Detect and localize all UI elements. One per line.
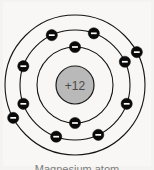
electron-L-2 [18,98,29,109]
electron-K-2 [69,41,80,52]
electron-L-6 [119,56,130,67]
electron-L-3 [18,61,29,72]
atom-model-svg: +12 [0,0,154,170]
electron-L-7 [121,98,132,109]
nucleus: +12 [56,66,94,104]
atom-diagram-figure: +12 Magnesium atom [0,0,154,170]
electron-L-5 [88,28,99,39]
electron-M-2 [131,47,142,58]
electron-K-1 [69,117,80,128]
figure-caption: Magnesium atom [0,163,154,170]
electron-L-4 [46,30,57,41]
electron-L-8 [93,129,104,140]
electron-L-1 [51,131,62,142]
nucleus-charge-label: +12 [65,79,86,93]
electron-M-1 [8,112,19,123]
